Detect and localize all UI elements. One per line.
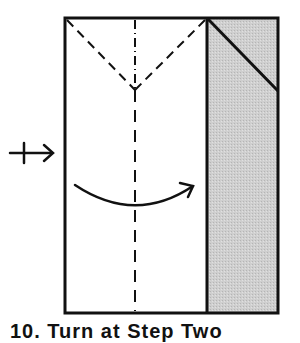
step-caption: 10. Turn at Step Two — [10, 320, 300, 343]
turn-over-icon — [10, 143, 53, 163]
folded-flap — [207, 18, 278, 313]
